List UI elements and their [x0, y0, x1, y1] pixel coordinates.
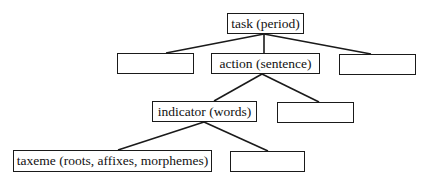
hierarchy-diagram: task (period) action (sentence) indicato… [0, 0, 432, 187]
edge-indicator-taxeme [118, 122, 204, 150]
node-indicator-sibling-empty [277, 102, 354, 123]
node-taxeme-label: taxeme (roots, affixes, morphemes) [17, 154, 208, 168]
node-action: action (sentence) [211, 53, 320, 74]
node-taxeme: taxeme (roots, affixes, morphemes) [13, 150, 212, 172]
node-right-empty [339, 54, 416, 75]
edge-task-left [166, 34, 264, 53]
node-left-empty [117, 53, 194, 74]
node-task: task (period) [227, 13, 304, 34]
node-indicator-label: indicator (words) [158, 105, 251, 119]
edge-task-right [264, 34, 371, 54]
node-indicator: indicator (words) [152, 101, 257, 122]
edge-action-sibling [262, 74, 319, 102]
node-task-label: task (period) [231, 17, 300, 31]
node-taxeme-sibling-empty [230, 151, 305, 172]
edge-action-indicator [214, 74, 262, 101]
edge-indicator-sibling [204, 122, 268, 151]
node-action-label: action (sentence) [220, 57, 312, 71]
